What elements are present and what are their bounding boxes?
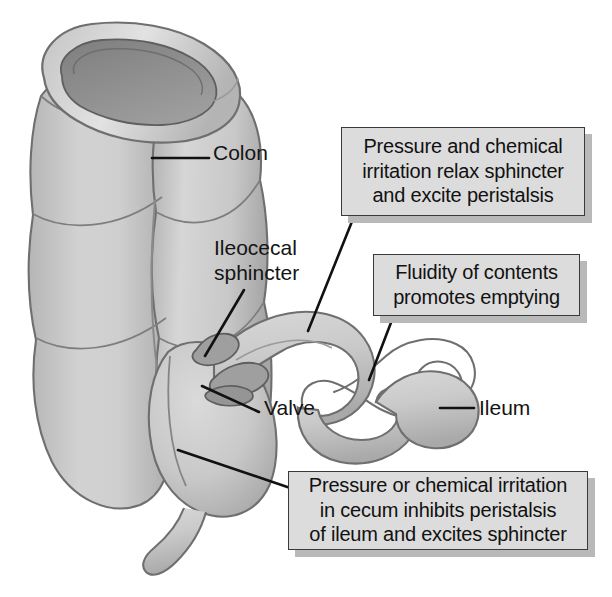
callout-sphincter-relax-line1: Pressure and chemical (363, 134, 562, 158)
callout-sphincter-relax: Pressure and chemical irritation relax s… (341, 127, 585, 216)
label-valve: Valve (264, 396, 315, 421)
label-colon: Colon (213, 141, 268, 166)
callout-fluidity-line2: promotes emptying (393, 285, 560, 309)
label-ileum: Ileum (479, 396, 530, 421)
ileocecal-valve-lower-lip (205, 386, 253, 406)
callout-cecum-inhibits-line2: in cecum inhibits peristalsis (320, 498, 557, 522)
label-ileocecal-sphincter: Ileocecal sphincter (214, 236, 299, 286)
callout-cecum-inhibits-line1: Pressure or chemical irritation (309, 473, 567, 497)
callout-fluidity-line1: Fluidity of contents (395, 260, 558, 284)
callout-sphincter-relax-line2: irritation relax sphincter (362, 159, 564, 183)
anatomical-diagram: Pressure and chemical irritation relax s… (0, 0, 612, 597)
callout-cecum-inhibits: Pressure or chemical irritation in cecum… (288, 471, 588, 550)
label-ileocecal-line2: sphincter (214, 261, 299, 284)
leader-fluidity (369, 320, 392, 380)
callout-cecum-inhibits-line3: of ileum and excites sphincter (309, 522, 566, 546)
appendix (143, 508, 206, 575)
callout-fluidity: Fluidity of contents promotes emptying (373, 254, 580, 316)
callout-sphincter-relax-line3: and excite peristalsis (372, 183, 553, 207)
label-ileocecal-line1: Ileocecal (214, 236, 297, 259)
